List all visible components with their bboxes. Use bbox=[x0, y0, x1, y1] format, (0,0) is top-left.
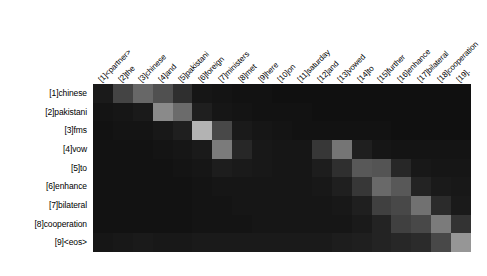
heatmap-cell bbox=[153, 177, 173, 196]
heatmap-cell bbox=[212, 196, 232, 215]
heatmap-cell bbox=[431, 196, 451, 215]
heatmap-cell bbox=[173, 196, 193, 215]
heatmap-cell bbox=[252, 233, 272, 252]
heatmap-cell bbox=[232, 233, 252, 252]
heatmap-cell bbox=[192, 140, 212, 159]
heatmap-cell bbox=[451, 215, 471, 234]
heatmap-cell bbox=[312, 177, 332, 196]
heatmap-cell bbox=[272, 140, 292, 159]
heatmap-cell bbox=[292, 103, 312, 122]
heatmap-cell bbox=[352, 84, 372, 103]
heatmap-cell bbox=[431, 103, 451, 122]
heatmap-cell bbox=[232, 103, 252, 122]
heatmap-cell bbox=[93, 84, 113, 103]
heatmap-cell bbox=[113, 215, 133, 234]
heatmap-cell bbox=[292, 159, 312, 178]
heatmap-cell bbox=[113, 84, 133, 103]
heatmap-cell bbox=[332, 84, 352, 103]
heatmap-cell bbox=[411, 177, 431, 196]
heatmap-cell bbox=[113, 233, 133, 252]
heatmap-cell bbox=[133, 121, 153, 140]
heatmap-cell bbox=[431, 215, 451, 234]
heatmap-cell bbox=[232, 215, 252, 234]
heatmap-cell bbox=[372, 103, 392, 122]
heatmap-cell bbox=[391, 140, 411, 159]
heatmap-cell bbox=[272, 159, 292, 178]
heatmap-cell bbox=[292, 121, 312, 140]
heatmap-cell bbox=[192, 215, 212, 234]
heatmap-cell bbox=[212, 140, 232, 159]
heatmap-cell bbox=[312, 196, 332, 215]
heatmap-cell bbox=[93, 103, 113, 122]
heatmap-cell bbox=[93, 233, 113, 252]
heatmap-cell bbox=[272, 103, 292, 122]
heatmap-cell bbox=[411, 215, 431, 234]
heatmap-cell bbox=[252, 215, 272, 234]
heatmap-cell bbox=[153, 215, 173, 234]
heatmap-cell bbox=[332, 121, 352, 140]
heatmap-cell bbox=[232, 140, 252, 159]
heatmap-cell bbox=[93, 196, 113, 215]
heatmap-cell bbox=[212, 177, 232, 196]
column-axis-labels: [1]<partner>[2]the[3]chinese[4]and[5]pak… bbox=[0, 0, 487, 84]
row-label-3: [3]fms bbox=[64, 121, 87, 140]
heatmap-cell bbox=[113, 140, 133, 159]
heatmap-cell bbox=[252, 140, 272, 159]
heatmap-cell bbox=[332, 140, 352, 159]
heatmap-cell bbox=[391, 215, 411, 234]
heatmap-cell bbox=[372, 159, 392, 178]
heatmap-cell bbox=[192, 121, 212, 140]
heatmap-cell bbox=[411, 233, 431, 252]
heatmap-cell bbox=[93, 121, 113, 140]
heatmap-cell bbox=[292, 233, 312, 252]
heatmap-cell bbox=[312, 84, 332, 103]
heatmap-cell bbox=[212, 121, 232, 140]
heatmap-cell bbox=[451, 177, 471, 196]
heatmap-cell bbox=[411, 196, 431, 215]
heatmap-grid bbox=[93, 84, 471, 252]
heatmap-cell bbox=[372, 215, 392, 234]
heatmap-cell bbox=[431, 233, 451, 252]
heatmap-cell bbox=[212, 215, 232, 234]
heatmap-cell bbox=[252, 121, 272, 140]
heatmap-cell bbox=[352, 121, 372, 140]
heatmap-cell bbox=[192, 84, 212, 103]
row-label-7: [7]bilateral bbox=[49, 196, 87, 215]
heatmap-cell bbox=[252, 196, 272, 215]
heatmap-cell bbox=[312, 159, 332, 178]
heatmap-cell bbox=[192, 103, 212, 122]
heatmap-cell bbox=[192, 177, 212, 196]
heatmap-cell bbox=[272, 196, 292, 215]
heatmap-cell bbox=[312, 233, 332, 252]
row-label-8: [8]cooperation bbox=[35, 215, 87, 234]
heatmap-cell bbox=[232, 159, 252, 178]
heatmap-cell bbox=[173, 140, 193, 159]
heatmap-cell bbox=[352, 215, 372, 234]
heatmap-cell bbox=[312, 103, 332, 122]
heatmap-cell bbox=[312, 215, 332, 234]
heatmap-cell bbox=[292, 196, 312, 215]
heatmap-cell bbox=[153, 140, 173, 159]
heatmap-cell bbox=[173, 103, 193, 122]
heatmap-cell bbox=[411, 84, 431, 103]
heatmap-cell bbox=[252, 177, 272, 196]
heatmap-cell bbox=[411, 159, 431, 178]
heatmap-cell bbox=[232, 121, 252, 140]
heatmap-cell bbox=[391, 196, 411, 215]
heatmap-cell bbox=[451, 159, 471, 178]
heatmap-cell bbox=[153, 159, 173, 178]
heatmap-cell bbox=[451, 140, 471, 159]
heatmap-cell bbox=[212, 84, 232, 103]
heatmap-cell bbox=[391, 159, 411, 178]
row-label-6: [6]enhance bbox=[46, 177, 87, 196]
heatmap-cell bbox=[133, 233, 153, 252]
heatmap-cell bbox=[133, 196, 153, 215]
heatmap-cell bbox=[173, 233, 193, 252]
heatmap-cell bbox=[352, 177, 372, 196]
heatmap-cell bbox=[133, 140, 153, 159]
heatmap-cell bbox=[332, 103, 352, 122]
column-label-9: [9]here bbox=[256, 61, 279, 84]
heatmap-cell bbox=[153, 196, 173, 215]
heatmap-cell bbox=[391, 233, 411, 252]
heatmap-cell bbox=[451, 196, 471, 215]
